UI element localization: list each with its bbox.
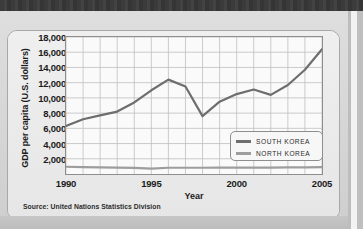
y-tick-label: 4,000 [24,138,66,149]
page-right-shadow [348,11,363,229]
series-line-south-korea [66,49,322,126]
y-tick-label: 8,000 [24,108,66,119]
legend-label: NORTH KOREA [256,150,310,157]
x-axis-tick-labels: 1990199520002005 [65,178,323,192]
y-tick-label: 14,000 [24,62,66,73]
legend-item: SOUTH KOREA [236,136,317,147]
y-tick-label: 10,000 [24,92,66,103]
x-axis-title: Year [65,191,323,201]
y-tick-label: 16,000 [24,47,66,58]
legend-label: SOUTH KOREA [256,138,310,145]
y-tick-label: 12,000 [24,77,66,88]
page-top-band [0,0,363,11]
x-tick-label: 1990 [56,178,76,189]
x-tick-label: 1995 [141,178,161,189]
y-tick-label: 2,000 [24,153,66,164]
chart-legend: SOUTH KOREANORTH KOREA [230,131,323,161]
band-texture [0,0,363,11]
series-line-north-korea [66,167,322,169]
source-note: Source: United Nations Statistics Divisi… [23,203,161,210]
legend-swatch-icon [236,152,251,155]
legend-item: NORTH KOREA [236,148,317,159]
y-tick-label: 18,000 [24,32,66,43]
x-tick-label: 2005 [312,178,332,189]
legend-swatch-icon [236,140,251,143]
page-bottom-edge [0,216,348,229]
y-tick-label: 6,000 [24,123,66,134]
textbook-page: GDP per capita (U.S. dollars) 18,00016,0… [0,11,349,216]
chart-card: GDP per capita (U.S. dollars) 18,00016,0… [7,30,340,220]
chart-card-inner: GDP per capita (U.S. dollars) 18,00016,0… [8,31,339,219]
x-tick-label: 2000 [226,178,246,189]
y-axis-tick-labels: 18,00016,00014,00012,00010,0008,0006,000… [22,31,66,221]
